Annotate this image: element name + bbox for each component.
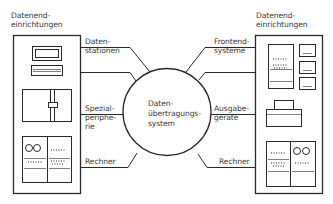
- printer-icon: [267, 101, 302, 127]
- label-line: Rechner: [219, 157, 250, 166]
- right-group-title: Datenend- einrichtungen: [256, 11, 307, 29]
- label-ausgabegeraete: Ausgabe- geräte: [214, 104, 249, 122]
- special-peripheral-icon: [23, 90, 72, 122]
- label-rechner-right: Rechner: [219, 157, 250, 166]
- frontend-indicators: [273, 59, 288, 68]
- label-line: Daten-: [85, 37, 120, 46]
- monitor-icon: [32, 47, 63, 76]
- label-line: Frontend-: [214, 37, 249, 46]
- frontend-system-icon: [269, 45, 316, 90]
- label-frontendsysteme: Frontend- systeme: [214, 37, 249, 55]
- title-line: Datenend-: [256, 11, 307, 20]
- left-group-title: Datenend- einrichtungen: [11, 11, 62, 29]
- label-rechner-left: Rechner: [85, 157, 116, 166]
- label-datenstationen: Daten- stationen: [85, 37, 120, 55]
- label-line: systeme: [214, 46, 249, 55]
- title-line: Datenend-: [11, 11, 62, 20]
- label-line: system: [148, 119, 201, 129]
- label-line: stationen: [85, 46, 120, 55]
- title-line: einrichtungen: [256, 20, 307, 29]
- center-label: Daten- übertragungs- system: [148, 99, 201, 129]
- computer-cabinet-icon: [267, 142, 316, 187]
- label-line: übertragungs-: [148, 109, 201, 119]
- label-line: periphe-: [85, 113, 116, 122]
- label-line: Rechner: [85, 157, 116, 166]
- label-line: rie: [85, 122, 116, 131]
- title-line: einrichtungen: [11, 20, 62, 29]
- label-line: Ausgabe-: [214, 104, 249, 113]
- label-line: Daten-: [148, 99, 201, 109]
- computer-cabinet-icon: [23, 137, 72, 183]
- label-spezialperipherie: Spezial- periphe- rie: [85, 104, 116, 131]
- label-line: Spezial-: [85, 104, 116, 113]
- label-line: geräte: [214, 113, 249, 122]
